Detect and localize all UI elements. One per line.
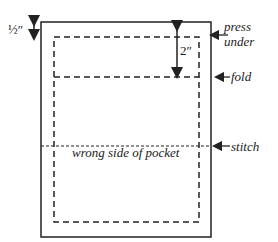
two-inch-label: 2″ (180, 44, 192, 57)
fold-label: fold (231, 70, 251, 83)
half-inch-label: ½″ (8, 23, 23, 36)
center-label: wrong side of pocket (72, 146, 179, 159)
press-label: press (224, 20, 251, 33)
stitch-label: stitch (231, 140, 259, 153)
under-label: under (224, 35, 254, 48)
